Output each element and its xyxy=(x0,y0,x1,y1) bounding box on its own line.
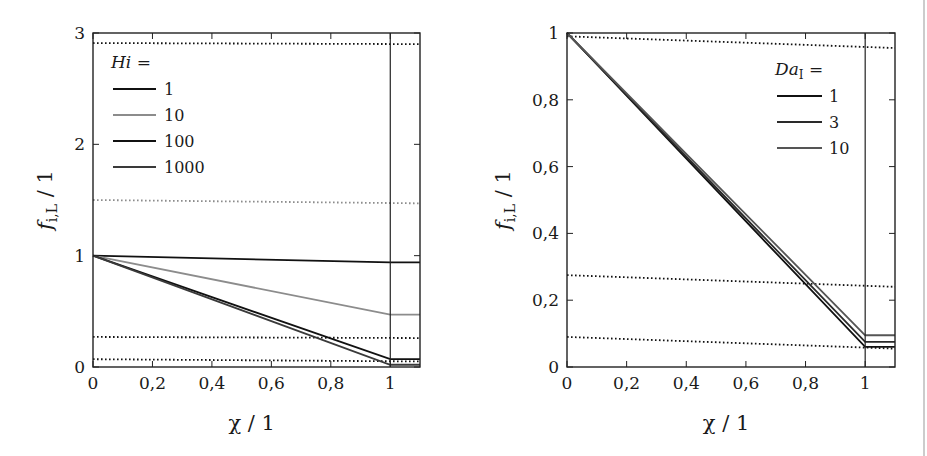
series-line-3 xyxy=(567,33,895,342)
x-tick-label: 0,4 xyxy=(198,373,225,393)
reference-dotted-line xyxy=(567,275,895,287)
x-tick-label: 0,2 xyxy=(139,373,166,393)
legend-title-tail: = xyxy=(804,59,824,79)
y-tick-label: 2 xyxy=(74,134,85,154)
series-line-10 xyxy=(93,256,420,315)
y-label-sub: i,L xyxy=(502,204,518,222)
y-axis-label: fi,L / 1 xyxy=(33,170,60,232)
y-axis-label: fi,L / 1 xyxy=(491,170,518,232)
x-tick-label: 0,6 xyxy=(258,373,285,393)
reference-dotted-line xyxy=(567,36,895,48)
legend-label: 1000 xyxy=(164,158,205,177)
series-line-100 xyxy=(93,256,420,360)
reference-dotted-line xyxy=(567,337,895,349)
legend-title: Hi = xyxy=(110,52,151,72)
y-label-tail: / 1 xyxy=(33,170,57,204)
y-tick-label: 1 xyxy=(74,246,85,266)
x-tick-label: 1 xyxy=(385,373,396,393)
series-line-1 xyxy=(93,256,420,263)
x-tick-label: 0,6 xyxy=(732,373,759,393)
y-tick-label: 0 xyxy=(74,357,85,377)
legend-label: 3 xyxy=(829,113,839,132)
x-axis-label: χ / 1 xyxy=(703,411,750,435)
series-line-10 xyxy=(567,33,895,335)
reference-dotted-line xyxy=(93,359,420,361)
y-label-tail: / 1 xyxy=(491,170,515,204)
right-plot: 00,20,40,60,8100,20,40,60,81χ / 1fi,L / … xyxy=(491,23,895,435)
reference-dotted-line xyxy=(93,43,420,44)
y-tick-label: 0 xyxy=(548,357,559,377)
figure: 00,20,40,60,810123χ / 1fi,L / 1Hi =11010… xyxy=(0,0,927,456)
reference-dotted-line xyxy=(93,200,420,203)
x-axis-label: χ / 1 xyxy=(228,411,275,435)
legend-title-main: Da xyxy=(774,59,799,79)
x-tick-label: 0,4 xyxy=(673,373,700,393)
y-tick-label: 0,6 xyxy=(532,157,559,177)
legend-label: 10 xyxy=(829,139,849,158)
y-tick-label: 3 xyxy=(74,23,85,43)
left-plot: 00,20,40,60,810123χ / 1fi,L / 1Hi =11010… xyxy=(33,23,420,435)
y-tick-label: 0,2 xyxy=(532,290,559,310)
y-tick-label: 0,8 xyxy=(532,90,559,110)
x-tick-label: 0,8 xyxy=(317,373,344,393)
x-tick-label: 1 xyxy=(860,373,871,393)
series-line-1 xyxy=(567,33,895,347)
x-tick-label: 0 xyxy=(88,373,99,393)
y-label-sub: i,L xyxy=(44,204,60,222)
legend-title: DaI = xyxy=(774,59,823,82)
x-tick-label: 0 xyxy=(562,373,573,393)
legend-label: 1 xyxy=(829,87,839,106)
legend-label: 10 xyxy=(164,106,184,125)
y-tick-label: 0,4 xyxy=(532,223,559,243)
legend-label: 100 xyxy=(164,132,195,151)
y-tick-label: 1 xyxy=(548,23,559,43)
x-tick-label: 0,8 xyxy=(792,373,819,393)
legend-label: 1 xyxy=(164,80,174,99)
reference-dotted-line xyxy=(93,337,420,338)
x-tick-label: 0,2 xyxy=(613,373,640,393)
